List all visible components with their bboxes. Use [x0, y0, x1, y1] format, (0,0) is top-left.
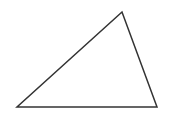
- triangle-shape: [17, 12, 157, 107]
- diagram-canvas: [0, 0, 172, 117]
